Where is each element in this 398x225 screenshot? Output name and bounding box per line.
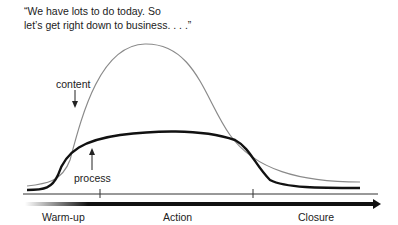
meeting-flow-diagram — [0, 0, 398, 225]
phase-warmup-label: Warm-up — [42, 211, 85, 223]
phase-action-label: Action — [163, 211, 192, 223]
phase-closure-label: Closure — [298, 211, 334, 223]
process-label: process — [74, 172, 111, 184]
content-label: content — [56, 78, 90, 90]
timeline-arrow-bar — [25, 202, 375, 206]
timeline-arrowhead-icon — [373, 199, 381, 209]
content-curve — [27, 44, 360, 186]
